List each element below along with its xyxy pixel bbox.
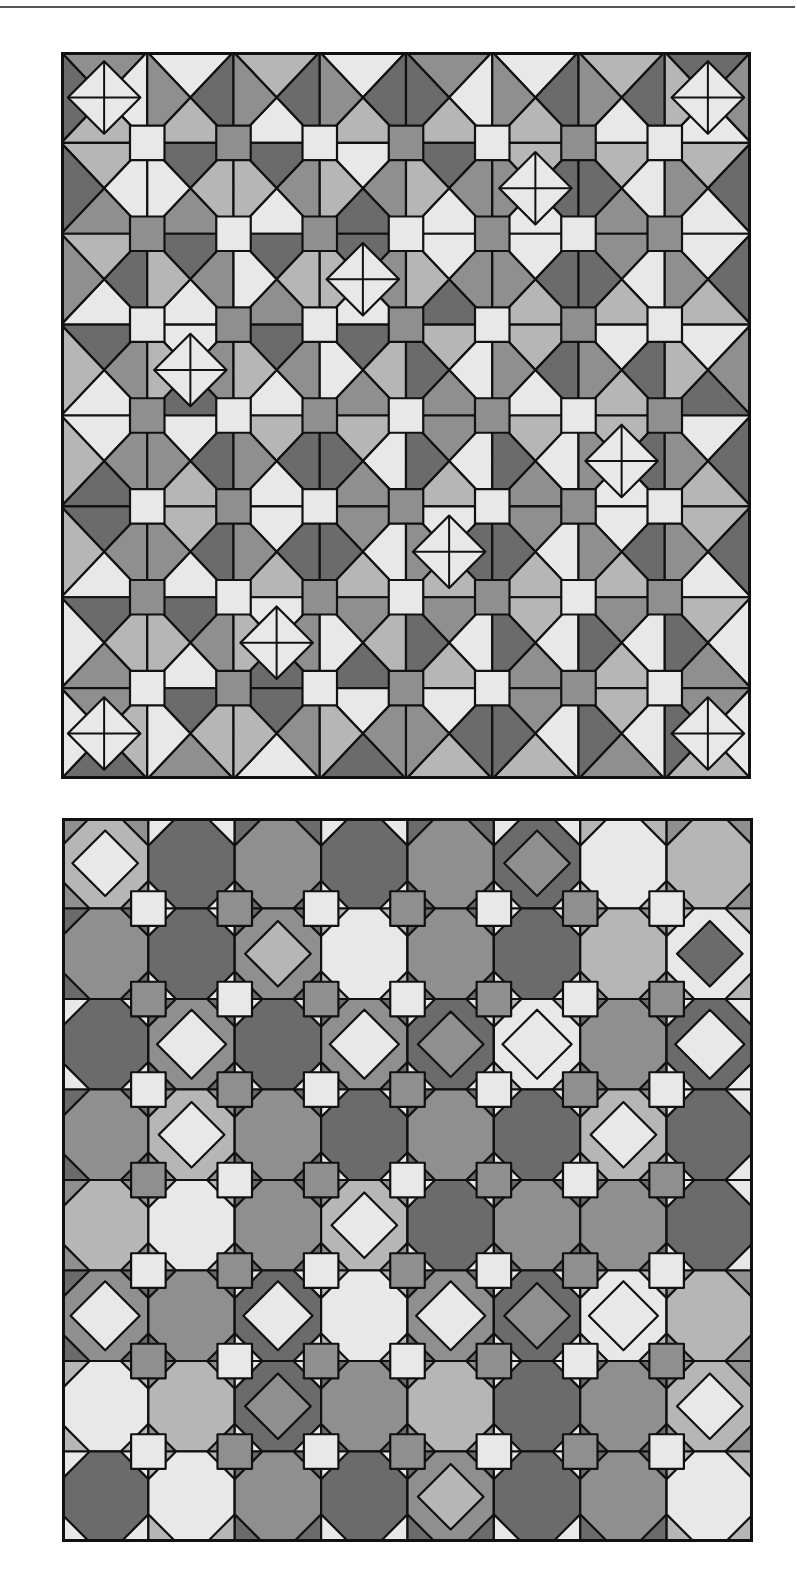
tile-small-square — [477, 982, 512, 1017]
tile-small-square — [563, 1344, 598, 1379]
tile-small-square — [475, 217, 510, 252]
tile-small-square — [648, 580, 683, 615]
tile-small-square — [303, 489, 338, 524]
tile-small-square — [475, 580, 510, 615]
tile-small-square — [130, 307, 165, 342]
tile-small-square — [563, 1434, 598, 1469]
tile-small-square — [477, 1344, 512, 1379]
tile-small-square — [561, 307, 596, 342]
tile-small-square — [131, 1253, 166, 1288]
tile-small-square — [390, 1163, 425, 1198]
tile-small-square — [390, 891, 425, 926]
tile-small-square — [303, 307, 338, 342]
tile-small-square — [216, 671, 251, 706]
tile-small-square — [130, 217, 165, 252]
tile-small-square — [303, 217, 338, 252]
tile-small-square — [649, 982, 684, 1017]
tile-small-square — [648, 217, 683, 252]
tile-small-square — [561, 217, 596, 252]
tile-small-square — [131, 1163, 166, 1198]
tile-small-square — [389, 489, 424, 524]
tile-small-square — [217, 1163, 252, 1198]
tile-small-square — [475, 307, 510, 342]
tile-small-square — [649, 1344, 684, 1379]
tile-small-square — [649, 1072, 684, 1107]
tile-small-square — [649, 891, 684, 926]
tile-small-square — [131, 891, 166, 926]
tile-small-square — [216, 217, 251, 252]
tile-small-square — [217, 891, 252, 926]
tile-small-square — [561, 398, 596, 433]
tile-small-square — [304, 1253, 339, 1288]
tile-small-square — [477, 1163, 512, 1198]
tile-small-square — [561, 671, 596, 706]
tile-small-square — [561, 489, 596, 524]
tile-small-square — [303, 671, 338, 706]
tile-small-square — [561, 580, 596, 615]
tile-small-square — [130, 398, 165, 433]
tile-small-square — [563, 891, 598, 926]
tile-small-square — [475, 489, 510, 524]
tile-small-square — [304, 1344, 339, 1379]
tile-small-square — [648, 307, 683, 342]
tile-small-square — [561, 126, 596, 161]
tile-small-square — [649, 1253, 684, 1288]
tile-small-square — [216, 126, 251, 161]
tile-small-square — [390, 1434, 425, 1469]
tile-small-square — [648, 671, 683, 706]
tile-small-square — [477, 1253, 512, 1288]
tile-small-square — [217, 1253, 252, 1288]
tile-small-square — [130, 671, 165, 706]
tile-small-square — [648, 126, 683, 161]
tile-small-square — [131, 982, 166, 1017]
tile-small-square — [216, 307, 251, 342]
tile-small-square — [217, 1072, 252, 1107]
tile-small-square — [475, 398, 510, 433]
tile-small-square — [304, 1434, 339, 1469]
tile-small-square — [389, 217, 424, 252]
tile-small-square — [130, 126, 165, 161]
tile-small-square — [389, 307, 424, 342]
tile-small-square — [217, 1344, 252, 1379]
tile-small-square — [390, 1072, 425, 1107]
tile-small-square — [390, 982, 425, 1017]
tile-small-square — [130, 489, 165, 524]
tiling-figure-top — [61, 52, 751, 779]
tile-small-square — [563, 982, 598, 1017]
tile-small-square — [304, 1163, 339, 1198]
tile-small-square — [303, 580, 338, 615]
tile-small-square — [303, 398, 338, 433]
tile-small-square — [304, 1072, 339, 1107]
tile-small-square — [304, 982, 339, 1017]
tile-small-square — [649, 1434, 684, 1469]
tile-small-square — [130, 580, 165, 615]
header-rule — [0, 6, 795, 8]
tile-small-square — [389, 398, 424, 433]
tile-small-square — [131, 1344, 166, 1379]
tile-small-square — [390, 1344, 425, 1379]
tile-small-square — [563, 1163, 598, 1198]
tile-small-square — [217, 982, 252, 1017]
tile-small-square — [389, 580, 424, 615]
tile-small-square — [477, 1072, 512, 1107]
tile-small-square — [477, 891, 512, 926]
tile-small-square — [389, 671, 424, 706]
tiling-figure-bottom — [62, 818, 753, 1542]
tile-small-square — [390, 1253, 425, 1288]
tile-small-square — [563, 1253, 598, 1288]
tiling-bottom-canvas — [62, 818, 753, 1542]
tile-small-square — [389, 126, 424, 161]
tile-small-square — [648, 398, 683, 433]
tile-small-square — [131, 1072, 166, 1107]
tile-small-square — [216, 489, 251, 524]
tiling-top-canvas — [61, 52, 751, 779]
tile-small-square — [477, 1434, 512, 1469]
tile-small-square — [475, 671, 510, 706]
tile-small-square — [216, 580, 251, 615]
tile-small-square — [217, 1434, 252, 1469]
tile-small-square — [304, 891, 339, 926]
tile-small-square — [648, 489, 683, 524]
tile-small-square — [563, 1072, 598, 1107]
tile-small-square — [649, 1163, 684, 1198]
tile-small-square — [131, 1434, 166, 1469]
